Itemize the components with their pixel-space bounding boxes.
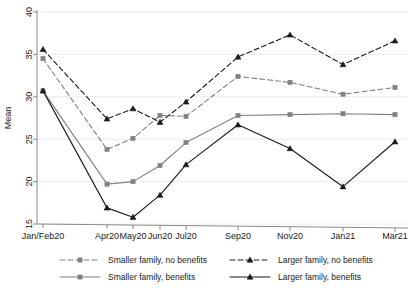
series-smaller_no_benefits <box>41 57 397 152</box>
y-axis-tick-label: 30 <box>24 92 34 102</box>
y-axis-tick-label: 40 <box>24 7 34 17</box>
y-axis-tick-labels: 152025303540 <box>24 7 34 229</box>
x-axis-tick-label: Apr20 <box>95 231 119 241</box>
legend-label: Smaller family, no benefits <box>108 255 207 265</box>
legend-marker-square <box>78 258 82 262</box>
y-axis-tick-label: 35 <box>24 49 34 59</box>
series-line-larger_benefits <box>43 91 395 217</box>
line-chart: 152025303540 Jan/Feb20Apr20May20Jun20Jul… <box>0 0 412 288</box>
y-axis-tick-label: 20 <box>24 177 34 187</box>
data-point-smaller_benefits <box>393 113 397 117</box>
data-point-larger_no_benefits <box>287 32 293 37</box>
series-layer <box>40 32 398 219</box>
x-axis-tick-labels: Jan/Feb20Apr20May20Jun20Jul20Sep20Nov20J… <box>22 231 408 241</box>
data-point-larger_no_benefits <box>392 38 398 43</box>
x-axis-tick-label: Jan21 <box>331 231 356 241</box>
data-point-smaller_no_benefits <box>158 113 162 117</box>
series-line-larger_no_benefits <box>43 35 395 122</box>
series-line-smaller_benefits <box>43 91 395 184</box>
legend-item-smaller_benefits[interactable]: Smaller family, benefits <box>60 272 195 282</box>
data-point-larger_no_benefits <box>340 62 346 67</box>
legend-item-smaller_no_benefits[interactable]: Smaller family, no benefits <box>60 255 207 265</box>
data-point-smaller_benefits <box>236 113 240 117</box>
legend: Smaller family, no benefitsLarger family… <box>60 255 373 282</box>
data-point-smaller_no_benefits <box>105 147 109 151</box>
x-axis-tick-label: Jun20 <box>148 231 173 241</box>
data-point-smaller_no_benefits <box>236 74 240 78</box>
y-axis-tick-label: 25 <box>24 134 34 144</box>
legend-label: Larger family, benefits <box>278 272 361 282</box>
data-point-smaller_no_benefits <box>184 114 188 118</box>
data-point-smaller_benefits <box>131 180 135 184</box>
legend-label: Smaller family, benefits <box>108 272 195 282</box>
legend-item-larger_benefits[interactable]: Larger family, benefits <box>230 272 361 282</box>
x-axis-tick-label: Jul20 <box>175 231 197 241</box>
series-larger_benefits <box>40 88 398 219</box>
legend-item-larger_no_benefits[interactable]: Larger family, no benefits <box>230 255 373 265</box>
axes <box>33 10 408 232</box>
series-line-smaller_no_benefits <box>43 59 395 150</box>
data-point-smaller_benefits <box>105 182 109 186</box>
x-axis-line <box>37 224 408 228</box>
data-point-smaller_benefits <box>341 112 345 116</box>
data-point-smaller_no_benefits <box>41 57 45 61</box>
x-axis-tick-label: May20 <box>119 231 146 241</box>
data-point-smaller_benefits <box>158 163 162 167</box>
y-axis-tick-label: 15 <box>24 219 34 229</box>
x-axis-tick-label: Jan/Feb20 <box>22 231 65 241</box>
data-point-smaller_no_benefits <box>341 92 345 96</box>
legend-marker-square <box>78 275 82 279</box>
series-smaller_benefits <box>41 89 397 186</box>
data-point-smaller_benefits <box>184 140 188 144</box>
x-axis-tick-label: Nov20 <box>277 231 303 241</box>
data-point-smaller_no_benefits <box>131 136 135 140</box>
data-point-smaller_benefits <box>288 113 292 117</box>
data-point-smaller_no_benefits <box>288 80 292 84</box>
y-axis-title: Mean <box>3 107 13 130</box>
series-larger_no_benefits <box>40 32 398 124</box>
legend-label: Larger family, no benefits <box>278 255 373 265</box>
x-axis-tick-label: Mar21 <box>382 231 408 241</box>
data-point-larger_benefits <box>104 205 110 210</box>
chart-container: 152025303540 Jan/Feb20Apr20May20Jun20Jul… <box>0 0 412 288</box>
data-point-larger_no_benefits <box>130 106 136 111</box>
data-point-larger_benefits <box>235 122 241 127</box>
data-point-larger_no_benefits <box>40 46 46 51</box>
data-point-smaller_no_benefits <box>393 85 397 89</box>
x-axis-tick-label: Sep20 <box>225 231 251 241</box>
gridlines <box>37 12 408 224</box>
